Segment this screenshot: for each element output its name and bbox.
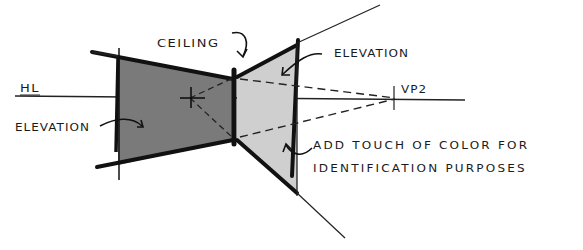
vanishing-point-label: VP2 [401, 84, 427, 94]
color-note-line1: ADD TOUCH OF COLOR FOR [313, 140, 529, 150]
color-note-line2: IDENTIFICATION PURPOSES [313, 163, 527, 173]
perspective-diagram: HL CEILING ELEVATION ELEVATION VP2 ADD T… [0, 0, 583, 250]
left-elevation-label: ELEVATION [15, 122, 90, 132]
right-elevation-label: ELEVATION [334, 48, 409, 58]
left-panel-left-edge-bold [116, 58, 118, 152]
perspective-line-bottom-right [297, 193, 345, 238]
ceiling-label: CEILING [157, 38, 220, 49]
horizon-line-label: HL [20, 83, 40, 94]
right-elevation-panel [237, 44, 297, 193]
perspective-line-top-right [297, 5, 380, 43]
left-elevation-panel [118, 56, 233, 165]
